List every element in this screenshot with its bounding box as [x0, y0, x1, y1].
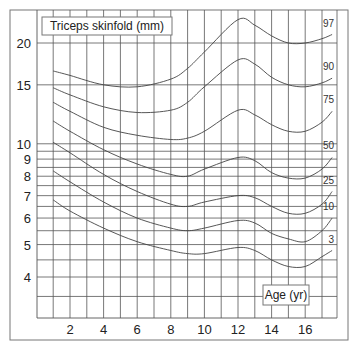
y-tick-label: 4	[24, 270, 31, 285]
percentile-label: 75	[323, 94, 335, 105]
percentile-label: 90	[323, 61, 335, 72]
y-tick-label: 6	[24, 211, 31, 226]
percentile-label: 10	[323, 201, 335, 212]
y-tick-label: 20	[17, 36, 31, 51]
percentile-label: 97	[323, 18, 335, 29]
y-tick-label: 10	[17, 137, 31, 152]
percentile-label: 25	[323, 175, 335, 186]
skinfold-chart: 456789101520 246810121416 9790755025103 …	[0, 0, 353, 349]
x-tick-label: 16	[298, 322, 312, 337]
percentile-label: 50	[323, 140, 335, 151]
y-tick-label: 9	[24, 152, 31, 167]
xlabel-box: Age (yr)	[263, 285, 309, 305]
title-box: Triceps skinfold (mm)	[42, 17, 172, 35]
percentile-label: 3	[328, 234, 334, 245]
x-tick-label: 14	[264, 322, 278, 337]
y-tick-label: 15	[17, 78, 31, 93]
chart-title: Triceps skinfold (mm)	[50, 19, 164, 33]
x-tick-label: 4	[100, 322, 107, 337]
x-tick-label: 8	[167, 322, 174, 337]
x-axis-title: Age (yr)	[265, 288, 308, 302]
x-tick-label: 10	[197, 322, 211, 337]
x-tick-label: 12	[231, 322, 245, 337]
x-tick-label: 6	[134, 322, 141, 337]
y-tick-label: 7	[24, 189, 31, 204]
y-tick-label: 5	[24, 238, 31, 253]
x-tick-label: 2	[66, 322, 73, 337]
y-tick-label: 8	[24, 169, 31, 184]
